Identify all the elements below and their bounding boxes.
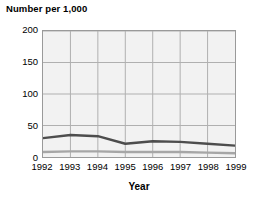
y-tick-label: 150 — [2, 57, 38, 67]
x-tick-label: 1997 — [170, 161, 191, 172]
y-tick-label: 50 — [2, 121, 38, 131]
line-chart: Number per 1,000 050100150200 1992199319… — [0, 0, 255, 204]
x-tick-label: 1998 — [198, 161, 219, 172]
series-line-lower-series — [43, 151, 235, 153]
x-axis-tick-labels: 19921993199419951996199719981999 — [42, 161, 236, 175]
x-tick-label: 1993 — [59, 161, 80, 172]
x-tick-label: 1994 — [87, 161, 108, 172]
series-line-upper-series — [43, 135, 235, 146]
y-axis-tick-labels: 050100150200 — [0, 0, 38, 204]
x-tick-label: 1996 — [142, 161, 163, 172]
y-tick-label: 200 — [2, 25, 38, 35]
y-tick-label: 100 — [2, 89, 38, 99]
data-series-layer — [43, 31, 235, 157]
x-tick-label: 1992 — [31, 161, 52, 172]
x-axis-title: Year — [42, 181, 236, 192]
x-tick-label: 1995 — [115, 161, 136, 172]
x-tick-label: 1999 — [225, 161, 246, 172]
plot-area — [42, 30, 236, 158]
